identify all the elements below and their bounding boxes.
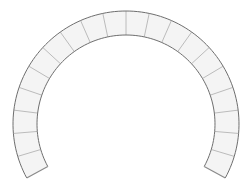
arch-diagram — [0, 0, 248, 192]
arch-extrados — [13, 11, 239, 178]
arch-ring — [13, 11, 239, 178]
arch-springers — [27, 166, 226, 177]
horseshoe-arch — [0, 0, 248, 192]
